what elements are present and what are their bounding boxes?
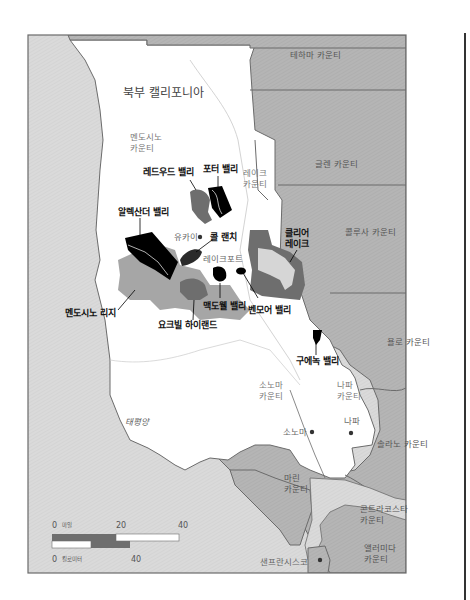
county-label-mendocino-2: 카운티 bbox=[130, 143, 154, 153]
county-label-glenn: 글렌 카운티 bbox=[315, 159, 358, 169]
scale-bar-km-dark bbox=[91, 541, 130, 548]
ava-label-clear-lake: 클리어 bbox=[285, 227, 309, 238]
county-label-sonoma: 소노마 bbox=[259, 380, 283, 390]
county-label-contra-costa: 콘트라코스타 bbox=[360, 504, 408, 514]
town-label-napa: 나파 bbox=[344, 416, 360, 426]
ava-label-potter-valley: 포터 밸리 bbox=[203, 163, 238, 174]
ava-label-mcdowell-valley: 맥도웰 밸리 bbox=[203, 300, 246, 311]
county-label-yolo: 욜로 카운티 bbox=[387, 337, 430, 347]
scale-mile-unit: 마일 bbox=[62, 521, 72, 529]
page-edge-rule bbox=[464, 33, 466, 600]
county-label-colusa: 콜루사 카운티 bbox=[345, 227, 396, 237]
ava-label-alexander-valley: 알렉산더 밸리 bbox=[118, 206, 169, 217]
county-label-napa-2: 카운티 bbox=[337, 391, 361, 401]
scale-mile-max: 40 bbox=[178, 521, 188, 530]
scale-bar-miles-light bbox=[116, 534, 179, 541]
town-label-sonoma: 소노마 bbox=[283, 427, 307, 437]
town-marker bbox=[310, 430, 314, 434]
scale-mile-zero: 0 bbox=[52, 521, 57, 530]
county-label-alameda: 앨러미다 bbox=[364, 543, 396, 553]
scale-km-unit: 킬로미터 bbox=[62, 555, 82, 563]
county-label-tehama: 테하마 카운티 bbox=[290, 50, 341, 60]
ava-label-guenoc-valley: 구에녹 밸리 bbox=[296, 355, 339, 366]
county-label-alameda-2: 카운티 bbox=[364, 554, 388, 564]
scale-mile-mid: 20 bbox=[116, 521, 126, 530]
county-label-contra-costa-2: 카운티 bbox=[360, 515, 384, 525]
ava-benmore-valley bbox=[236, 268, 246, 275]
county-label-solano: 솔라노 카운티 bbox=[377, 439, 428, 449]
scale-bar-miles-dark bbox=[52, 534, 116, 541]
ava-label-redwood-valley: 레드우드 밸리 bbox=[143, 166, 194, 177]
town-marker bbox=[198, 235, 202, 239]
ocean-label: 태평양 bbox=[125, 417, 150, 427]
ava-label-benmore-valley: 벤모어 밸리 bbox=[248, 304, 291, 315]
region-title: 북부 캘리포니아 bbox=[123, 86, 204, 100]
county-label-mendocino: 멘도시노 bbox=[130, 132, 162, 142]
scale-bar-km-light bbox=[52, 541, 91, 548]
ava-label-yorkville-highlands: 요크빌 하이랜드 bbox=[158, 319, 218, 330]
scale-km-max: 40 bbox=[131, 555, 141, 564]
county-label-marin-2: 카운티 bbox=[284, 484, 308, 494]
town-marker bbox=[318, 558, 322, 562]
town-label-lakeport: 레이크포트 bbox=[203, 254, 243, 264]
county-label-napa: 나파 bbox=[337, 380, 353, 390]
county-label-sonoma-2: 카운티 bbox=[259, 391, 283, 401]
scale-km-zero: 0 bbox=[52, 555, 57, 564]
ava-label-cole-ranch: 콜 랜치 bbox=[210, 231, 237, 242]
ava-label-clear-lake-2: 레이크 bbox=[285, 238, 309, 249]
county-label-marin: 마린 bbox=[284, 473, 300, 483]
town-label-san-francisco: 샌프란시스코 bbox=[260, 557, 308, 567]
ava-label-mendocino-ridge: 멘도시노 리지 bbox=[65, 307, 116, 318]
wine-region-map: 북부 캘리포니아 테하마 카운티 글렌 카운티 콜루사 카운티 욜로 카운티 솔… bbox=[0, 0, 470, 600]
town-marker bbox=[349, 431, 353, 435]
town-label-ukiah: 유카이 bbox=[174, 232, 198, 242]
county-label-lake: 레이크 bbox=[243, 168, 267, 178]
county-label-lake-2: 카운티 bbox=[243, 179, 267, 189]
